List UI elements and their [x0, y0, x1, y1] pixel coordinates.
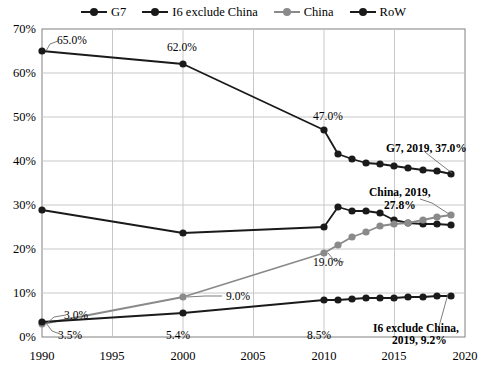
data-label-china-2019-line2: 27.8%	[384, 199, 416, 211]
data-label-g7-2010: 47.0%	[313, 110, 343, 122]
data-label-i6-2019-line1: I6 exclude China,	[373, 322, 459, 334]
data-label-i6-2019-line2: 2019, 9.2%	[392, 334, 447, 346]
data-label-china-2010: 19.0%	[313, 256, 343, 268]
data-label-china-2019-line1: China, 2019,	[369, 186, 431, 198]
data-label-g7-2000: 62.0%	[167, 41, 197, 53]
data-label-i6-1990: 3.5%	[58, 329, 82, 341]
data-label-g7-2019: G7, 2019, 37.0%	[386, 142, 467, 154]
data-label-i6-2000: 5.4%	[166, 329, 190, 341]
data-label-i6-2010: 8.5%	[307, 329, 331, 341]
chart-figure: G7 I6 exclude China China RoW 70% 60% 50…	[0, 0, 487, 381]
data-label-china-2000: 9.0%	[226, 290, 250, 302]
figure-caption	[0, 366, 487, 380]
data-label-g7-1990: 65.0%	[57, 34, 87, 46]
data-label-china-1990: 3.0%	[64, 309, 88, 321]
